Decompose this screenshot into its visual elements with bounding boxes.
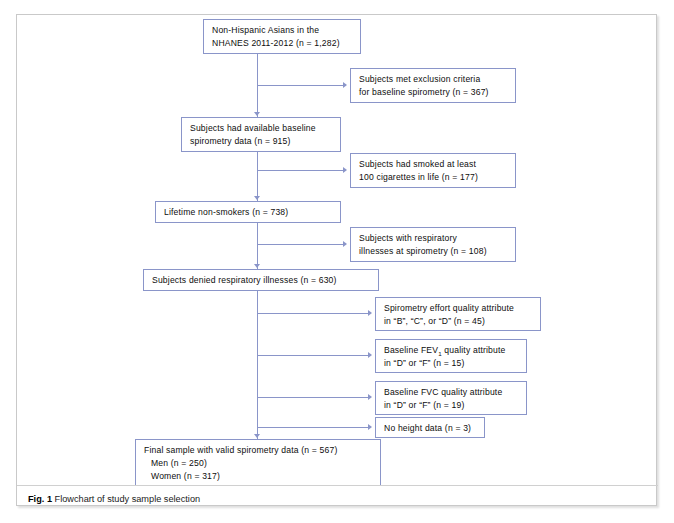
node-excl-fev1-line-1: Baseline FEV1 quality attribute	[384, 344, 519, 357]
node-excl-smokers-line-1: Subjects had smoked at least	[359, 158, 508, 171]
node-excl-fev1-line-1-post: quality attribute	[442, 345, 506, 355]
node-final-sample-line-3: Women (n = 317)	[144, 470, 373, 483]
node-baseline-spirometry-line-1: Subjects had available baseline	[190, 122, 333, 135]
node-excl-fvc-line-2: in “D” or “F” (n = 19)	[384, 399, 519, 412]
connector-baseline-trunk	[257, 152, 258, 201]
node-excl-height-line-1: No height data (n = 3)	[384, 422, 477, 435]
node-excl-height: No height data (n = 3)	[375, 417, 485, 438]
flowchart-canvas: Non-Hispanic Asians in the NHANES 2011-2…	[17, 15, 658, 485]
connector-branch-excl-respiratory	[257, 244, 343, 245]
node-baseline-spirometry: Subjects had available baseline spiromet…	[181, 117, 341, 152]
arrow-nonsmokers-to-denied	[254, 264, 260, 268]
node-baseline-spirometry-line-2: spirometry data (n = 915)	[190, 135, 333, 148]
node-excl-respiratory-line-2: illnesses at spirometry (n = 108)	[359, 245, 508, 258]
node-final-sample-line-2: Men (n = 250)	[144, 457, 373, 470]
node-excl-criteria: Subjects met exclusion criteria for base…	[350, 68, 516, 103]
arrow-to-excl-criteria	[343, 82, 347, 88]
node-excl-criteria-line-2: for baseline spirometry (n = 367)	[359, 86, 508, 99]
node-excl-effort: Spirometry effort quality attribute in “…	[375, 297, 541, 331]
node-excl-effort-line-1: Spirometry effort quality attribute	[384, 302, 533, 315]
connector-nonsmokers-trunk	[257, 223, 258, 269]
node-excl-fev1-line-2: in “D” or “F” (n = 15)	[384, 357, 519, 370]
node-excl-smokers-line-2: 100 cigarettes in life (n = 177)	[359, 171, 508, 184]
connector-branch-excl-effort	[257, 313, 368, 314]
arrow-baseline-to-nonsmokers	[254, 196, 260, 200]
node-excl-respiratory: Subjects with respiratory illnesses at s…	[350, 227, 516, 262]
node-lifetime-non-smokers-line-1: Lifetime non-smokers (n = 738)	[164, 206, 333, 219]
arrow-cohort-to-baseline	[254, 112, 260, 116]
arrow-to-excl-respiratory	[343, 241, 347, 247]
connector-branch-excl-fev1	[257, 355, 368, 356]
node-excl-fvc-line-1: Baseline FVC quality attribute	[384, 386, 519, 399]
arrow-denied-to-final	[254, 434, 260, 438]
node-denied-respiratory: Subjects denied respiratory illnesses (n…	[143, 269, 379, 291]
node-denied-respiratory-line-1: Subjects denied respiratory illnesses (n…	[152, 274, 371, 287]
arrow-to-excl-smokers	[343, 167, 347, 173]
node-cohort-line-2: NHANES 2011-2012 (n = 1,282)	[212, 37, 353, 50]
node-excl-effort-line-2: in “B”, “C”, or “D” (n = 45)	[384, 315, 533, 328]
connector-branch-excl-criteria	[257, 85, 343, 86]
arrow-to-excl-height	[368, 424, 372, 430]
node-lifetime-non-smokers: Lifetime non-smokers (n = 738)	[155, 201, 341, 223]
arrow-to-excl-fev1	[368, 352, 372, 358]
node-excl-smokers: Subjects had smoked at least 100 cigaret…	[350, 153, 516, 188]
connector-branch-excl-smokers	[257, 170, 343, 171]
figure-caption-text: Flowchart of study sample selection	[55, 494, 201, 504]
arrow-to-excl-effort	[368, 310, 372, 316]
node-excl-fev1-line-1-pre: Baseline FEV	[384, 345, 438, 355]
node-excl-fev1: Baseline FEV1 quality attribute in “D” o…	[375, 339, 527, 373]
node-excl-fvc: Baseline FVC quality attribute in “D” or…	[375, 381, 527, 415]
connector-branch-excl-fvc	[257, 397, 368, 398]
figure-frame: Non-Hispanic Asians in the NHANES 2011-2…	[16, 14, 657, 506]
node-final-sample: Final sample with valid spirometry data …	[135, 439, 381, 486]
node-excl-respiratory-line-1: Subjects with respiratory	[359, 232, 508, 245]
connector-branch-excl-height	[257, 427, 368, 428]
node-final-sample-line-1: Final sample with valid spirometry data …	[144, 444, 373, 457]
arrow-to-excl-fvc	[368, 394, 372, 400]
caption-divider	[17, 485, 658, 486]
figure-caption: Fig. 1 Flowchart of study sample selecti…	[28, 493, 200, 506]
node-excl-criteria-line-1: Subjects met exclusion criteria	[359, 73, 508, 86]
node-cohort: Non-Hispanic Asians in the NHANES 2011-2…	[203, 19, 361, 54]
figure-caption-label: Fig. 1	[28, 494, 52, 504]
node-cohort-line-1: Non-Hispanic Asians in the	[212, 24, 353, 37]
